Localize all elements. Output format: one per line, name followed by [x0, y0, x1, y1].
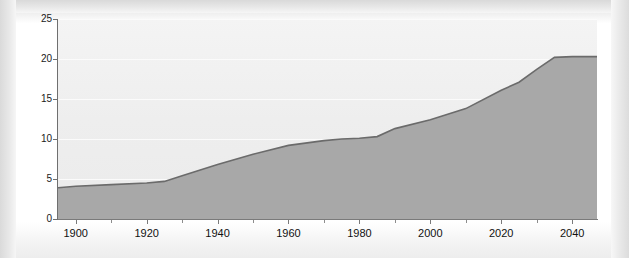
- x-tick-label-1980: 1980: [329, 227, 389, 239]
- y-tick-label-5: 5: [10, 174, 52, 184]
- y-tick-15: 15: [0, 94, 52, 104]
- x-tick-label-1960: 1960: [258, 227, 318, 239]
- page-right-edge-shading: [611, 0, 629, 258]
- y-tick-mark-15: [53, 99, 58, 100]
- x-tick-mark-1940: [218, 220, 219, 224]
- x-tick-mark-2000: [430, 220, 431, 224]
- area-series-age-65-and-over: [58, 19, 597, 219]
- x-tick-minor-1970: [324, 220, 325, 223]
- x-tick-mark-2020: [501, 220, 502, 224]
- x-tick-minor-2010: [466, 220, 467, 223]
- y-tick-label-0: 0: [10, 214, 52, 224]
- x-tick-minor-1990: [395, 220, 396, 223]
- x-tick-mark-1900: [76, 220, 77, 224]
- y-tick-mark-20: [53, 59, 58, 60]
- x-axis-line: [57, 219, 598, 220]
- x-tick-minor-1950: [253, 220, 254, 223]
- x-tick-label-1920: 1920: [117, 227, 177, 239]
- x-tick-label-1900: 1900: [46, 227, 106, 239]
- y-tick-mark-0: [53, 219, 58, 220]
- y-tick-10: 10: [0, 134, 52, 144]
- y-axis-line: [57, 19, 58, 220]
- y-tick-mark-25: [53, 19, 58, 20]
- y-tick-label-20: 20: [10, 54, 52, 64]
- y-axis-title-container: Age 65 and over (percentage): [18, 20, 34, 220]
- y-tick-mark-10: [53, 139, 58, 140]
- x-tick-minor-1910: [111, 220, 112, 223]
- y-tick-20: 20: [0, 54, 52, 64]
- x-tick-mark-1980: [359, 220, 360, 224]
- y-tick-label-25: 25: [10, 14, 52, 24]
- page-top-edge-shading: [0, 0, 629, 13]
- x-tick-minor-1930: [182, 220, 183, 223]
- x-tick-label-1940: 1940: [188, 227, 248, 239]
- y-tick-5: 5: [0, 174, 52, 184]
- x-tick-mark-1920: [147, 220, 148, 224]
- y-tick-label-10: 10: [10, 134, 52, 144]
- x-tick-label-2000: 2000: [400, 227, 460, 239]
- x-tick-label-2040: 2040: [542, 227, 602, 239]
- plot-area: [58, 19, 597, 219]
- y-tick-mark-5: [53, 179, 58, 180]
- y-tick-0: 0: [0, 214, 52, 224]
- area-fill-path: [58, 57, 597, 219]
- x-tick-mark-1960: [288, 220, 289, 224]
- x-tick-label-2020: 2020: [471, 227, 531, 239]
- chart-figure: Age 65 and over (percentage) 0510152025 …: [0, 0, 629, 258]
- y-tick-25: 25: [0, 14, 52, 24]
- y-tick-label-15: 15: [10, 94, 52, 104]
- x-tick-minor-2030: [537, 220, 538, 223]
- x-tick-mark-2040: [572, 220, 573, 224]
